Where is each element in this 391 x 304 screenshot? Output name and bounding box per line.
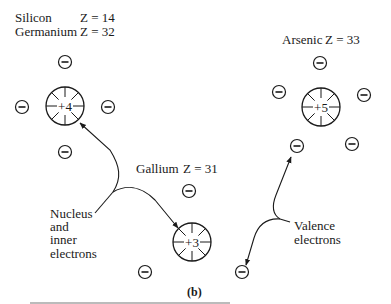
electron-icon bbox=[183, 185, 196, 198]
arrow-to-gallium-valence-electron bbox=[246, 219, 280, 265]
electron-icon bbox=[346, 138, 359, 151]
electron-icon bbox=[273, 86, 286, 99]
semiconductor-atom-diagram: Silicon Z = 14 Germanium Z = 32 Arsenic … bbox=[0, 0, 391, 304]
electron-icon bbox=[16, 101, 29, 114]
atom-ga: +3 bbox=[139, 185, 249, 279]
electron-icon bbox=[139, 266, 152, 279]
atom-si-ge: +4 bbox=[16, 56, 115, 159]
nucleus-label-leader bbox=[95, 192, 113, 213]
arrow-to-gallium-nucleus bbox=[113, 187, 178, 228]
arrow-to-silicon-nucleus bbox=[80, 123, 119, 192]
gallium-z: Z = 31 bbox=[183, 161, 218, 176]
arrow-to-arsenic-valence-electron bbox=[273, 157, 291, 219]
valence-pointer-arrows bbox=[246, 157, 291, 265]
nucleus-charge: +4 bbox=[58, 99, 72, 114]
nucleus-charge: +5 bbox=[314, 100, 328, 115]
electron-icon bbox=[358, 89, 371, 102]
diagram-svg: Silicon Z = 14 Germanium Z = 32 Arsenic … bbox=[0, 0, 391, 304]
electron-icon bbox=[59, 146, 72, 159]
silicon-name: Silicon bbox=[15, 10, 52, 25]
germanium-name: Germanium bbox=[15, 24, 77, 39]
nucleus-charge: +3 bbox=[185, 235, 199, 250]
germanium-z: Z = 32 bbox=[80, 24, 115, 39]
subfigure-label: (b) bbox=[187, 285, 202, 299]
electron-icon bbox=[102, 101, 115, 114]
svg-text:electrons: electrons bbox=[50, 246, 97, 261]
svg-text:inner: inner bbox=[50, 232, 77, 247]
svg-text:electrons: electrons bbox=[294, 232, 341, 247]
electron-icon bbox=[236, 266, 249, 279]
arsenic-name: Arsenic bbox=[282, 32, 323, 47]
arsenic-z: Z = 33 bbox=[325, 32, 360, 47]
svg-text:Valence: Valence bbox=[294, 218, 335, 233]
electron-icon bbox=[291, 140, 304, 153]
valence-label: Valence electrons bbox=[294, 218, 341, 247]
electron-icon bbox=[59, 56, 72, 69]
silicon-z: Z = 14 bbox=[80, 10, 115, 25]
nucleus-label: Nucleus and inner electrons bbox=[50, 206, 97, 261]
gallium-name: Gallium bbox=[136, 161, 179, 176]
electron-icon bbox=[314, 57, 327, 70]
valence-label-leader bbox=[280, 219, 290, 222]
atom-as: +5 bbox=[273, 57, 371, 153]
